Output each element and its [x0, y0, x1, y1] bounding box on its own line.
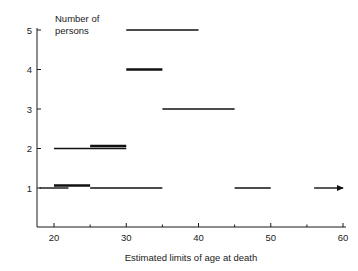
x-tick-label-20: 20 [49, 232, 60, 243]
y-tick-label-2: 2 [27, 143, 32, 154]
x-axis-ticks [54, 223, 343, 227]
y-tick-label-1: 1 [27, 183, 32, 194]
x-tick-label-30: 30 [121, 232, 132, 243]
x-tick-label-50: 50 [265, 232, 276, 243]
x-axis-title: Estimated limits of age at death [125, 252, 258, 263]
axes-group [37, 28, 346, 227]
x-tick-label-60: 60 [338, 232, 349, 243]
y-axis-label-line-2: persons [55, 25, 89, 36]
y-axis-tick-labels: 12345 [27, 25, 32, 194]
x-axis-tick-labels: 2030405060 [49, 232, 349, 243]
age-at-death-range-chart: 12345 2030405060 Number of persons Estim… [0, 0, 358, 271]
chart-container: 12345 2030405060 Number of persons Estim… [0, 0, 358, 271]
x-tick-label-40: 40 [193, 232, 204, 243]
data-segments-group [40, 30, 343, 188]
y-axis-ticks [37, 30, 41, 188]
y-axis-label-line-1: Number of [55, 13, 100, 24]
y-tick-label-3: 3 [27, 104, 32, 115]
y-tick-label-4: 4 [27, 64, 32, 75]
y-tick-label-5: 5 [27, 25, 32, 36]
